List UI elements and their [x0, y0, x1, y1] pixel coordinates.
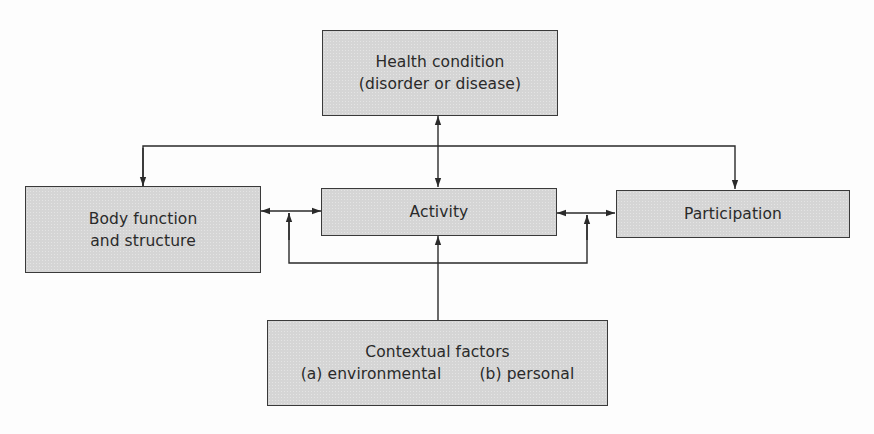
icf-diagram: Health condition (disorder or disease) B…	[0, 0, 874, 434]
node-contextual-factors: Contextual factors (a) environmental (b)…	[267, 320, 608, 406]
arrow-health-participation	[143, 146, 735, 189]
contextual-option-environmental: (a) environmental	[301, 363, 442, 385]
contextual-option-personal: (b) personal	[479, 363, 574, 385]
health-condition-title: Health condition	[375, 51, 504, 73]
health-condition-subtitle: (disorder or disease)	[359, 73, 521, 95]
activity-label: Activity	[410, 201, 469, 223]
contextual-factors-title: Contextual factors	[365, 341, 510, 363]
node-health-condition: Health condition (disorder or disease)	[322, 30, 558, 116]
contextual-factors-options: (a) environmental (b) personal	[301, 363, 575, 385]
node-body-function: Body function and structure	[25, 186, 261, 273]
body-function-line1: Body function	[89, 208, 198, 230]
node-activity: Activity	[321, 188, 557, 236]
node-participation: Participation	[616, 190, 850, 238]
participation-label: Participation	[684, 203, 782, 225]
body-function-line2: and structure	[90, 230, 196, 252]
